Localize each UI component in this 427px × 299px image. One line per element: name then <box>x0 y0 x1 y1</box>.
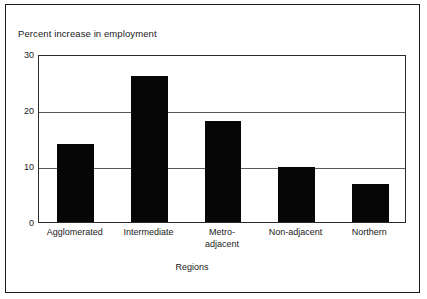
x-axis-tick-label-line: Metro- <box>185 227 259 239</box>
x-axis-tick-label-line: Intermediate <box>112 227 186 239</box>
x-axis-tick-label-line: Northern <box>332 227 406 239</box>
bar <box>278 167 315 222</box>
y-axis-tick-label: 0 <box>4 218 34 228</box>
x-axis-tick-label: Agglomerated <box>38 227 112 239</box>
bar <box>205 121 242 222</box>
x-axis-tick-label-line: adjacent <box>185 239 259 251</box>
y-axis-tick-label: 30 <box>4 50 34 60</box>
x-axis-tick-label: Northern <box>332 227 406 239</box>
x-axis-title: Regions <box>38 262 406 272</box>
chart-title: Percent increase in employment <box>18 28 157 39</box>
x-axis-tick-label: Metro-adjacent <box>185 227 259 250</box>
x-axis-tick-labels: AgglomeratedIntermediateMetro-adjacentNo… <box>38 227 406 261</box>
gridline <box>39 112 405 113</box>
figure: Percent increase in employment 0102030 A… <box>0 0 427 299</box>
x-axis-tick-label: Intermediate <box>112 227 186 239</box>
x-axis-tick-label-line: Non-adjacent <box>259 227 333 239</box>
x-axis-title-text: Regions <box>175 262 208 272</box>
bar <box>131 76 168 222</box>
y-axis: 0102030 <box>0 55 34 223</box>
x-axis-tick-label: Non-adjacent <box>259 227 333 239</box>
bar <box>352 184 389 222</box>
y-axis-tick-label: 20 <box>4 106 34 116</box>
plot-area <box>38 55 406 223</box>
y-axis-tick-label: 10 <box>4 162 34 172</box>
x-axis-tick-label-line: Agglomerated <box>38 227 112 239</box>
bar <box>57 144 94 222</box>
